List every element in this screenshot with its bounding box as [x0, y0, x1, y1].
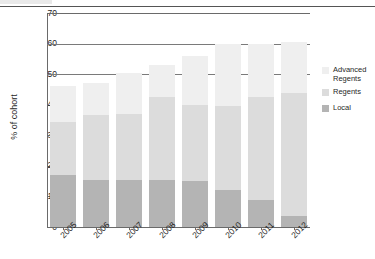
legend-swatch-local: [322, 105, 329, 112]
bar-segment-regents-2007[interactable]: [116, 114, 142, 180]
bar-segment-advanced-regents-2005[interactable]: [50, 86, 76, 121]
bar-segment-regents-2010[interactable]: [215, 106, 241, 190]
bar-segment-advanced-regents-2006[interactable]: [83, 83, 109, 115]
legend-swatch-regents: [322, 89, 329, 96]
legend-item-advanced-regents[interactable]: Advanced Regents: [322, 66, 375, 83]
bar-segment-local-2005[interactable]: [50, 175, 76, 227]
legend-item-local[interactable]: Local: [322, 104, 375, 115]
bar-segment-advanced-regents-2012[interactable]: [281, 42, 307, 92]
bar-segment-advanced-regents-2008[interactable]: [149, 65, 175, 97]
bar-segment-regents-2006[interactable]: [83, 115, 109, 179]
legend-label: Regents: [333, 88, 375, 97]
bar-segment-advanced-regents-2010[interactable]: [215, 44, 241, 107]
page-top-artifact: [0, 0, 52, 4]
bar-segment-regents-2005[interactable]: [50, 122, 76, 176]
legend-label: Local: [333, 104, 375, 113]
y-axis-title: % of cohort: [9, 77, 19, 157]
legend-swatch-advanced-regents: [322, 67, 329, 74]
legend-label: Advanced Regents: [333, 66, 375, 83]
chart-legend: Advanced RegentsRegentsLocal: [322, 66, 375, 120]
legend-item-regents[interactable]: Regents: [322, 88, 375, 99]
bar-segment-regents-2008[interactable]: [149, 97, 175, 180]
bar-segment-regents-2011[interactable]: [248, 97, 274, 199]
chart-container: 010203040506070 200520062007200820092010…: [0, 0, 375, 259]
bar-segment-regents-2009[interactable]: [182, 105, 208, 181]
bar-segment-advanced-regents-2011[interactable]: [248, 44, 274, 98]
page-top-rule: [0, 6, 375, 7]
bar-segment-regents-2012[interactable]: [281, 93, 307, 217]
bar-segment-advanced-regents-2007[interactable]: [116, 73, 142, 114]
bars-layer: [47, 13, 310, 227]
bar-segment-advanced-regents-2009[interactable]: [182, 56, 208, 105]
